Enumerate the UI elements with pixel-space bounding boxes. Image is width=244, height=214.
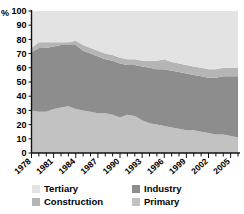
x-tick-label: 2002	[189, 156, 210, 176]
legend-item-tertiary: Tertiary	[32, 184, 132, 194]
y-tick-label: 80	[16, 35, 26, 45]
chart-legend: Tertiary Industry Construction Primary	[32, 182, 240, 208]
legend-swatch-industry	[132, 185, 140, 193]
y-tick-label: 40	[16, 91, 26, 101]
y-axis: 0102030405060708090100	[11, 6, 31, 158]
legend-label-industry: Industry	[144, 184, 181, 194]
x-tick-label: 1993	[123, 156, 144, 176]
legend-label-tertiary: Tertiary	[44, 184, 78, 194]
y-tick-label: 60	[16, 63, 26, 73]
y-tick-label: 20	[16, 120, 26, 130]
x-tick-label: 1984	[56, 156, 77, 176]
y-tick-label: 30	[16, 106, 26, 116]
legend-label-construction: Construction	[44, 197, 103, 207]
y-tick-label: 50	[16, 77, 26, 87]
x-tick-label: 1987	[78, 156, 99, 176]
stacked-areas	[32, 11, 239, 153]
legend-swatch-construction	[32, 198, 40, 206]
x-tick-label: 1999	[167, 156, 188, 176]
stacked-area-chart: % 0102030405060708090100 197819811984198…	[0, 0, 244, 214]
y-tick-label: 100	[11, 6, 26, 16]
y-tick-label: 70	[16, 49, 26, 59]
x-tick-label: 1990	[101, 156, 122, 176]
x-tick-label: 1981	[34, 156, 55, 176]
x-tick-label: 2005	[211, 156, 232, 176]
legend-item-primary: Primary	[132, 197, 232, 207]
legend-swatch-tertiary	[32, 185, 40, 193]
legend-swatch-primary	[132, 198, 140, 206]
y-tick-label: 10	[16, 134, 26, 144]
x-axis: 1978198119841987199019931996199920022005	[12, 153, 240, 176]
legend-item-industry: Industry	[132, 184, 232, 194]
y-tick-label: 90	[16, 20, 26, 30]
legend-label-primary: Primary	[144, 197, 179, 207]
x-tick-label: 1978	[12, 156, 33, 176]
legend-item-construction: Construction	[32, 197, 132, 207]
x-tick-label: 1996	[145, 156, 166, 176]
